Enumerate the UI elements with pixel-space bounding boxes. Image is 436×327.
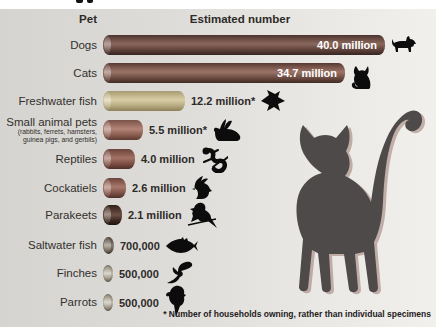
chart-row-dogs: Dogs 40.0 million — [0, 35, 416, 55]
column-header-pet: Pet — [0, 13, 97, 25]
bar-value: 5.5 million* — [149, 124, 207, 136]
row-label-main: Small animal pets — [0, 116, 97, 128]
chart-row-saltwater-fish: Saltwater fish 700,000 — [0, 237, 199, 254]
bar-cats: 34.7 million — [103, 63, 345, 83]
row-label: Cats — [0, 67, 97, 79]
parakeet-icon — [187, 200, 217, 230]
bar-value: 2.6 million — [132, 182, 186, 194]
chart-row-parakeets: Parakeets 2.1 million — [0, 205, 217, 225]
clipped-title-fragment — [76, 0, 83, 3]
bar-value: 700,000 — [120, 240, 160, 252]
saltwater-fish-icon — [165, 237, 199, 255]
bar-value: 40.0 million — [317, 39, 377, 51]
chart-row-reptiles: Reptiles 4.0 million — [0, 149, 228, 169]
bar-value: 500,000 — [119, 268, 159, 280]
clipped-title-fragment — [87, 0, 93, 3]
footnote: * Number of households owning, rather th… — [163, 309, 431, 319]
chart-row-cats: Cats 34.7 million — [0, 63, 372, 83]
bar-value: 12.2 million* — [191, 95, 255, 107]
bar-value: 500,000 — [119, 297, 159, 309]
row-label: Reptiles — [0, 153, 97, 165]
scottie-dog-icon — [390, 35, 416, 55]
column-header-estimated-number: Estimated number — [150, 13, 330, 25]
bar-parrots — [103, 294, 113, 311]
bar-dogs: 40.0 million — [103, 35, 385, 55]
bar-value: 4.0 million — [141, 153, 195, 165]
chart-row-parrots: Parrots 500,000 — [0, 294, 188, 311]
chart-row-finches: Finches 500,000 — [0, 265, 194, 282]
row-label-sub: (rabbits, ferrets, hamsters, guinea pigs… — [0, 128, 97, 144]
chart-row-freshwater-fish: Freshwater fish 12.2 million* — [0, 91, 286, 111]
standing-cat-silhouette — [272, 92, 424, 308]
bar-saltwater-fish — [103, 237, 114, 254]
row-label: Dogs — [0, 39, 97, 51]
row-label: Freshwater fish — [0, 95, 97, 107]
chart-row-cockatiels: Cockatiels 2.6 million — [0, 178, 213, 198]
row-label: Saltwater fish — [0, 239, 97, 251]
row-label: Parrots — [0, 296, 97, 308]
chart-canvas: Pet Estimated number Dogs 40.0 million C… — [0, 0, 436, 327]
bar-freshwater-fish — [103, 91, 185, 111]
bar-parakeets — [103, 205, 122, 225]
row-label: Small animal pets (rabbits, ferrets, ham… — [0, 116, 97, 144]
bar-small-animal-pets — [103, 120, 143, 140]
gecko-icon — [200, 146, 228, 173]
bar-cockatiels — [103, 178, 126, 198]
row-label: Cockatiels — [0, 182, 97, 194]
cockatiel-icon — [191, 176, 213, 200]
bar-finches — [103, 265, 113, 282]
finch-icon — [164, 261, 194, 286]
row-label: Finches — [0, 267, 97, 279]
bar-value: 34.7 million — [277, 67, 337, 79]
bar-value: 2.1 million — [128, 209, 182, 221]
rabbit-icon — [212, 118, 242, 142]
row-label: Parakeets — [0, 209, 97, 221]
chart-row-small-animal-pets: Small animal pets (rabbits, ferrets, ham… — [0, 120, 242, 140]
sitting-cat-icon — [350, 64, 372, 90]
bar-reptiles — [103, 149, 135, 169]
